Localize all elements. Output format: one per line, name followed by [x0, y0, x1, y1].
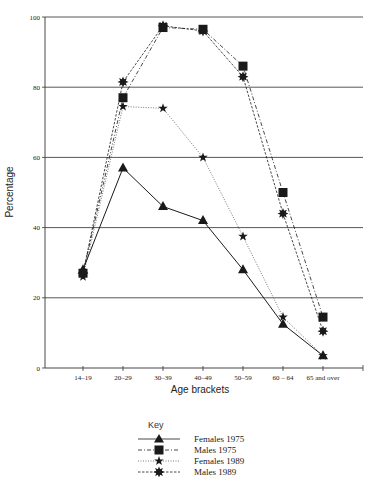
legend-title: Key [148, 420, 278, 430]
starburst-marker [278, 208, 289, 219]
star-marker [238, 231, 248, 240]
star-marker [158, 103, 168, 112]
x-tick-label: 50–59 [234, 374, 252, 382]
starburst-marker [118, 76, 129, 87]
starburst-marker [158, 20, 169, 31]
axes: 02040608010014–1920–2930–3940–4950–5960 … [30, 14, 364, 383]
series-males-1975 [79, 23, 328, 322]
legend-label: Females 1989 [194, 456, 244, 466]
legend-item-males-1975: Males 1975 [138, 444, 278, 455]
data-series [78, 20, 329, 359]
triangle-marker [158, 201, 168, 210]
series-males-1989 [78, 20, 329, 336]
starburst-marker [318, 326, 329, 337]
legend-item-males-1989: Males 1989 [138, 466, 278, 477]
legend-label: Females 1975 [194, 434, 244, 444]
star-marker-icon [138, 455, 180, 466]
triangle-marker [118, 162, 128, 171]
square-marker [279, 188, 288, 197]
square-marker [119, 93, 128, 102]
x-axis-title: Age brackets [171, 384, 229, 395]
y-tick-label: 60 [33, 154, 41, 162]
series-females-1989 [78, 102, 328, 360]
y-tick-label: 100 [30, 14, 41, 22]
square-marker [239, 62, 248, 71]
x-tick-label: 30–39 [154, 374, 172, 382]
square-marker-icon [138, 444, 180, 455]
y-tick-label: 0 [37, 365, 41, 373]
x-tick-label: 65 and over [306, 374, 340, 382]
legend-label: Males 1975 [194, 445, 236, 455]
x-tick-label: 40–49 [194, 374, 212, 382]
y-tick-label: 40 [33, 224, 41, 232]
line-chart: 02040608010014–1920–2930–3940–4950–5960 … [0, 0, 378, 400]
y-tick-label: 80 [33, 84, 41, 92]
x-tick-label: 20–29 [114, 374, 132, 382]
starburst-marker-icon [138, 466, 180, 477]
legend-item-females-1975: Females 1975 [138, 433, 278, 444]
triangle-marker-icon [138, 433, 180, 444]
square-marker [319, 313, 328, 322]
y-axis-title: Percentage [4, 166, 15, 218]
legend-item-females-1989: Females 1989 [138, 455, 278, 466]
star-marker [118, 102, 128, 111]
starburst-marker [78, 268, 89, 279]
starburst-marker [238, 71, 249, 82]
series-females-1975 [78, 162, 328, 359]
y-tick-label: 20 [33, 294, 41, 302]
x-tick-label: 14–19 [74, 374, 92, 382]
legend: Key Females 1975 Males 1975 Females 1989… [138, 420, 278, 477]
starburst-marker [198, 26, 209, 37]
legend-label: Males 1989 [194, 467, 236, 477]
x-tick-label: 60 – 64 [273, 374, 295, 382]
